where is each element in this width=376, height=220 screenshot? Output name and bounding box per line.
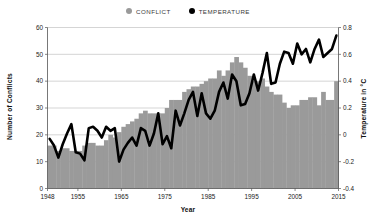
plot-area: 0102030405060 -0.4-0.200.20.40.60.8 1948… bbox=[0, 0, 376, 220]
y-axis-left-title: Number of Conflicts bbox=[6, 67, 13, 147]
svg-text:1975: 1975 bbox=[158, 193, 173, 200]
svg-text:1965: 1965 bbox=[114, 193, 129, 200]
svg-text:0.6: 0.6 bbox=[343, 51, 352, 58]
svg-text:2015: 2015 bbox=[331, 193, 346, 200]
svg-text:50: 50 bbox=[36, 51, 44, 58]
y-axis-right-ticks: -0.4-0.200.20.40.60.8 bbox=[339, 24, 355, 192]
svg-text:60: 60 bbox=[36, 24, 44, 31]
y-axis-right-title: Temperature in °C bbox=[360, 69, 367, 149]
svg-text:-0.4: -0.4 bbox=[343, 185, 354, 192]
svg-text:20: 20 bbox=[36, 131, 44, 138]
svg-text:1948: 1948 bbox=[40, 193, 55, 200]
svg-text:30: 30 bbox=[36, 104, 44, 111]
svg-text:1995: 1995 bbox=[245, 193, 260, 200]
svg-text:1955: 1955 bbox=[71, 193, 86, 200]
svg-text:0.2: 0.2 bbox=[343, 104, 352, 111]
svg-text:0: 0 bbox=[343, 131, 347, 138]
svg-text:0.8: 0.8 bbox=[343, 24, 352, 31]
svg-text:10: 10 bbox=[36, 158, 44, 165]
conflict-bars bbox=[48, 57, 339, 188]
svg-text:2005: 2005 bbox=[288, 193, 303, 200]
x-axis-title: Year bbox=[0, 206, 376, 213]
svg-text:0: 0 bbox=[39, 185, 43, 192]
svg-text:0.4: 0.4 bbox=[343, 77, 352, 84]
y-axis-left-ticks: 0102030405060 bbox=[36, 24, 48, 192]
svg-text:-0.2: -0.2 bbox=[343, 158, 354, 165]
x-axis-ticks: 19481955196519751985199520052015 bbox=[40, 189, 346, 200]
svg-text:40: 40 bbox=[36, 77, 44, 84]
conflict-temperature-chart: CONFLICT TEMPERATURE 0102030405060 -0.4-… bbox=[0, 0, 376, 220]
svg-text:1985: 1985 bbox=[201, 193, 216, 200]
